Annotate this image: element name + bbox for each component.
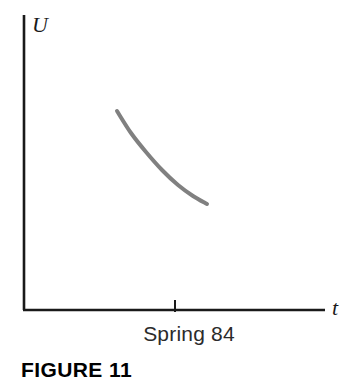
- x-axis-label: t: [332, 297, 338, 319]
- figure-caption: FIGURE 11: [21, 358, 132, 382]
- data-curve-line: [117, 111, 207, 204]
- x-axis-tick-label: Spring 84: [0, 322, 364, 346]
- figure-container: U t Spring 84 FIGURE 11: [0, 0, 364, 385]
- y-axis-label: U: [32, 14, 48, 36]
